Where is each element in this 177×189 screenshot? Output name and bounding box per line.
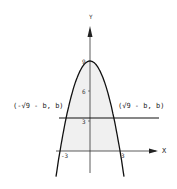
y-tick-label: 6	[82, 88, 86, 95]
x-axis-label: X	[162, 147, 167, 155]
right-intersection-label: (√9 - b, b)	[118, 102, 164, 110]
parabola-plot: X Y 963 -33 (-√9 - b, b) (√9 - b, b)	[0, 0, 177, 189]
x-axis-arrow	[149, 149, 158, 154]
y-axis-label: Y	[89, 13, 93, 20]
y-tick-label: 9	[82, 58, 86, 65]
x-tick-label: -3	[61, 152, 69, 159]
y-axis-arrow	[88, 26, 93, 37]
y-tick-label: 3	[82, 118, 86, 125]
left-intersection-label: (-√9 - b, b)	[13, 102, 64, 110]
x-tick-label: 3	[121, 152, 125, 159]
